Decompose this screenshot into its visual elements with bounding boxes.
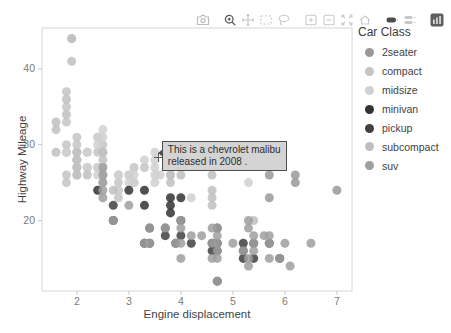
data-point-subcompact[interactable] — [52, 148, 61, 157]
data-point-subcompact[interactable] — [72, 163, 81, 172]
data-point-midsize[interactable] — [187, 193, 196, 202]
autoscale-button[interactable] — [339, 12, 354, 27]
x-axis-title: Engine displacement — [42, 308, 352, 320]
data-point-suv[interactable] — [213, 254, 222, 263]
data-point-suv[interactable] — [280, 239, 289, 248]
data-point-midsize[interactable] — [98, 125, 107, 134]
data-point-2seater[interactable] — [265, 193, 274, 202]
zoom-in-button[interactable] — [303, 12, 318, 27]
camera-icon — [196, 13, 210, 27]
data-point-midsize[interactable] — [130, 171, 139, 180]
plotly-logo-button[interactable] — [429, 12, 444, 27]
tooltip-line2: released in 2008 . — [168, 156, 281, 168]
legend-dot-subcompact — [365, 142, 374, 151]
lasso-select-button[interactable] — [276, 12, 291, 27]
plotly-figure: 234567203040 Engine displacement Highway… — [0, 0, 451, 333]
data-point-subcompact[interactable] — [52, 125, 61, 134]
legend-dot-pickup — [365, 124, 374, 133]
plotly-logo-icon — [430, 13, 444, 27]
data-point-suv[interactable] — [286, 261, 295, 270]
box-select-button[interactable] — [258, 12, 273, 27]
data-point-subcompact[interactable] — [208, 171, 217, 180]
legend-label: pickup — [382, 122, 412, 134]
data-point-2seater[interactable] — [332, 186, 341, 195]
data-point-midsize[interactable] — [114, 171, 123, 180]
data-point-subcompact[interactable] — [62, 95, 71, 104]
data-point-suv[interactable] — [197, 231, 206, 240]
data-point-pickup[interactable] — [109, 201, 118, 210]
data-point-suv[interactable] — [145, 224, 154, 233]
data-point-suv[interactable] — [228, 239, 237, 248]
data-point-minivan[interactable] — [166, 208, 175, 217]
hover-tooltip: This is a chevrolet malibu released in 2… — [162, 141, 287, 171]
data-point-suv[interactable] — [176, 239, 185, 248]
data-point-compact[interactable] — [62, 178, 71, 187]
data-point-subcompact[interactable] — [166, 178, 175, 187]
data-point-midsize[interactable] — [150, 178, 159, 187]
data-point-suv[interactable] — [265, 231, 274, 240]
hover-closest-button[interactable] — [384, 12, 399, 27]
data-point-midsize[interactable] — [83, 148, 92, 157]
data-point-subcompact[interactable] — [67, 34, 76, 43]
data-point-suv[interactable] — [306, 239, 315, 248]
data-point-suv[interactable] — [98, 171, 107, 180]
data-point-subcompact[interactable] — [208, 201, 217, 210]
data-point-subcompact[interactable] — [83, 171, 92, 180]
legend-item-subcompact[interactable]: subcompact — [356, 137, 451, 156]
data-point-minivan[interactable] — [140, 186, 149, 195]
data-point-midsize[interactable] — [244, 178, 253, 187]
data-point-subcompact[interactable] — [67, 57, 76, 66]
data-point-minivan[interactable] — [140, 201, 149, 210]
legend-item-minivan[interactable]: minivan — [356, 100, 451, 119]
data-point-minivan[interactable] — [124, 186, 133, 195]
data-point-suv[interactable] — [109, 216, 118, 225]
data-point-subcompact[interactable] — [109, 186, 118, 195]
lasso-select-icon — [277, 13, 291, 27]
legend-item-midsize[interactable]: midsize — [356, 81, 451, 100]
legend-label: compact — [382, 65, 422, 77]
data-point-suv[interactable] — [187, 231, 196, 240]
zoom-button[interactable] — [222, 12, 237, 27]
autoscale-icon — [340, 13, 354, 27]
data-point-suv[interactable] — [244, 224, 253, 233]
data-point-suv[interactable] — [161, 224, 170, 233]
data-point-suv[interactable] — [213, 224, 222, 233]
data-point-suv[interactable] — [249, 246, 258, 255]
data-point-minivan[interactable] — [166, 193, 175, 202]
legend-dot-midsize — [365, 86, 374, 95]
data-point-minivan[interactable] — [176, 193, 185, 202]
data-point-suv[interactable] — [145, 239, 154, 248]
legend-item-2seater[interactable]: 2seater — [356, 43, 451, 62]
data-point-subcompact[interactable] — [98, 148, 107, 157]
legend-item-compact[interactable]: compact — [356, 62, 451, 81]
reset-axes-button[interactable] — [357, 12, 372, 27]
x-tick-label: 2 — [74, 295, 80, 307]
data-point-subcompact[interactable] — [62, 110, 71, 119]
data-point-suv[interactable] — [244, 261, 253, 270]
modebar-group-hover — [381, 12, 417, 27]
zoom-out-button[interactable] — [321, 12, 336, 27]
hover-compare-button[interactable] — [402, 12, 417, 27]
data-point-midsize[interactable] — [140, 155, 149, 164]
data-point-suv[interactable] — [124, 201, 133, 210]
data-point-suv[interactable] — [176, 254, 185, 263]
legend-title: Car Class — [358, 25, 451, 39]
data-point-suv[interactable] — [176, 216, 185, 225]
data-point-subcompact[interactable] — [176, 171, 185, 180]
data-point-suv[interactable] — [249, 231, 258, 240]
x-tick-label: 4 — [178, 295, 184, 307]
data-point-midsize[interactable] — [156, 171, 165, 180]
pan-button[interactable] — [240, 12, 255, 27]
data-point-suv[interactable] — [213, 277, 222, 286]
data-point-suv[interactable] — [275, 254, 284, 263]
data-point-suv[interactable] — [265, 254, 274, 263]
legend-item-pickup[interactable]: pickup — [356, 119, 451, 138]
data-point-2seater[interactable] — [291, 178, 300, 187]
legend-label: subcompact — [382, 141, 439, 153]
download-png-button[interactable] — [195, 12, 210, 27]
data-point-suv[interactable] — [239, 246, 248, 255]
legend-item-suv[interactable]: suv — [356, 156, 451, 175]
data-point-midsize[interactable] — [62, 148, 71, 157]
data-point-suv[interactable] — [98, 193, 107, 202]
data-point-2seater[interactable] — [265, 171, 274, 180]
